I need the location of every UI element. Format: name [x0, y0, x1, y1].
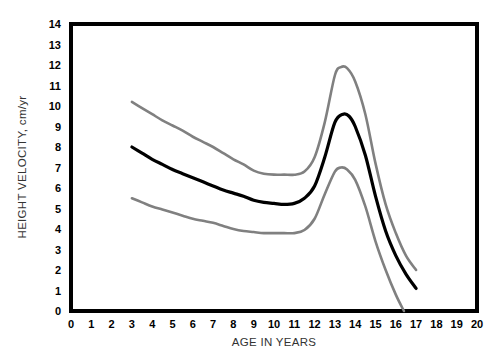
x-tick-label: 10 [268, 318, 280, 330]
x-tick-label: 2 [109, 318, 115, 330]
x-tick-label: 18 [430, 318, 442, 330]
y-tick-label: 5 [55, 203, 61, 215]
x-tick-label: 15 [369, 318, 381, 330]
x-tick-label: 17 [410, 318, 422, 330]
x-tick-label: 11 [288, 318, 300, 330]
y-tick-label: 13 [49, 39, 61, 51]
x-tick-label: 20 [471, 318, 483, 330]
y-tick-label: 2 [55, 264, 61, 276]
y-tick-label: 11 [49, 80, 61, 92]
y-tick-label: 9 [55, 121, 61, 133]
x-axis-tick-labels: 01234567891011121314151617181920 [68, 318, 483, 330]
y-tick-label: 4 [55, 223, 62, 235]
y-tick-label: 3 [55, 244, 61, 256]
y-tick-label: 0 [55, 305, 61, 317]
growth-velocity-chart: 01234567891011121314 0123456789101112131… [0, 0, 493, 358]
x-tick-label: 5 [169, 318, 175, 330]
y-tick-label: 12 [49, 59, 61, 71]
x-tick-label: 16 [390, 318, 402, 330]
x-tick-label: 8 [230, 318, 236, 330]
x-tick-label: 0 [68, 318, 74, 330]
y-tick-label: 7 [55, 162, 61, 174]
y-tick-label: 8 [55, 141, 61, 153]
x-tick-label: 1 [88, 318, 94, 330]
x-tick-label: 14 [349, 318, 362, 330]
x-tick-label: 7 [210, 318, 216, 330]
x-tick-label: 12 [308, 318, 320, 330]
x-tick-label: 4 [149, 318, 156, 330]
x-tick-label: 9 [251, 318, 257, 330]
y-tick-label: 6 [55, 182, 61, 194]
x-tick-label: 6 [190, 318, 196, 330]
chart-page: 01234567891011121314 0123456789101112131… [0, 0, 493, 358]
y-tick-label: 14 [49, 18, 62, 30]
y-tick-label: 10 [49, 100, 61, 112]
x-tick-label: 13 [329, 318, 341, 330]
y-tick-label: 1 [55, 285, 61, 297]
y-axis-title: HEIGHT VELOCITY, cm/yr [16, 96, 28, 239]
x-tick-label: 3 [129, 318, 135, 330]
x-tick-label: 19 [451, 318, 463, 330]
x-axis-title: AGE IN YEARS [232, 336, 317, 348]
